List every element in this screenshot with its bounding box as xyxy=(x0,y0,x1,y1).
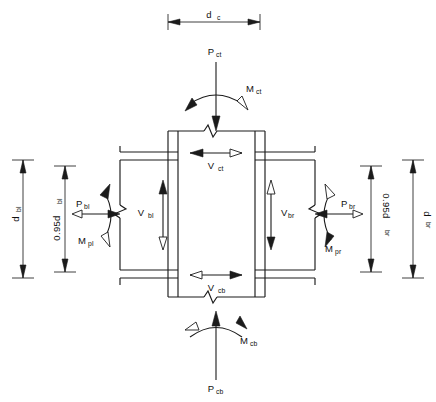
dim-dc-label-sub: c xyxy=(217,14,221,21)
pcb-label: P xyxy=(208,383,215,394)
vct-label: V xyxy=(208,160,215,171)
mct-label: M xyxy=(246,83,254,94)
vbr-label-sub: br xyxy=(288,212,295,219)
dim-dbl-label: d xyxy=(10,216,21,222)
free-body-diagram: d c P ct M ct V ct V cb M cb xyxy=(0,0,436,402)
mcb-label: M xyxy=(240,335,248,346)
dim-dbr-label: d xyxy=(422,211,433,217)
dim-095dbl-label: 0.95d xyxy=(51,215,62,240)
pbl-label: P xyxy=(76,198,83,209)
vcb-label: V xyxy=(208,282,215,293)
dim-095dbr-label-sub: br xyxy=(384,230,391,237)
dim-095dbr-label: 0.95d xyxy=(381,193,392,218)
pct-label: P xyxy=(208,46,215,57)
fbd-canvas: d c P ct M ct V ct V cb M cb xyxy=(0,0,436,402)
mpl-label-sub: pl xyxy=(88,240,94,248)
vbl-label: V xyxy=(138,207,145,218)
mpr-label-sub: pr xyxy=(335,248,342,256)
mpl-label: M xyxy=(78,235,86,246)
dim-dbr-label-sub: br xyxy=(425,222,432,229)
mcb-label-sub: cb xyxy=(250,340,258,347)
mct-label-sub: ct xyxy=(256,88,262,95)
vbl-label-sub: bl xyxy=(148,212,154,219)
pcb-label-sub: cb xyxy=(216,388,224,395)
dim-dbl-label-sub: bl xyxy=(15,206,22,212)
mpr-label: M xyxy=(325,243,333,254)
dim-dc-label: d xyxy=(206,9,212,20)
pbr-label-sub: br xyxy=(349,203,356,210)
pbr-label: P xyxy=(341,198,348,209)
vbr-label: V xyxy=(281,207,288,218)
vcb-label-sub: cb xyxy=(218,287,226,294)
dim-095dbl-label-sub: bl xyxy=(56,198,63,204)
pct-label-sub: ct xyxy=(216,51,222,58)
pbl-label-sub: bl xyxy=(84,203,90,210)
vct-label-sub: ct xyxy=(218,165,224,172)
